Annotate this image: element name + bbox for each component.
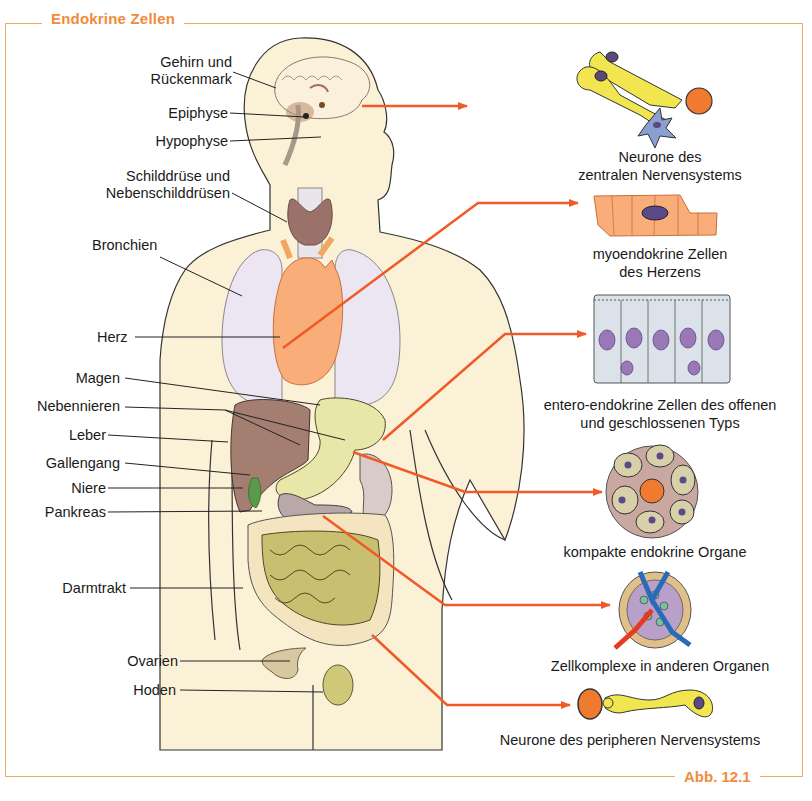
label-hoden: Hoden <box>100 682 176 699</box>
compact-endocrine-organ-illustration <box>606 445 698 538</box>
enteroendocrine-cells-illustration <box>594 295 730 383</box>
label-schilddruese-line2: Nebenschilddrüsen <box>60 185 230 202</box>
cns-neuron-illustration <box>577 52 712 148</box>
label-hypophyse: Hypophyse <box>120 133 228 150</box>
caption-myoendokrin: myoendokrine Zellen des Herzens <box>560 245 760 281</box>
label-bronchien: Bronchien <box>92 237 157 254</box>
label-darmtrakt: Darmtrakt <box>30 580 126 597</box>
caption-entero-line1: entero-endokrine Zellen des offenen <box>510 396 810 414</box>
label-ovarien: Ovarien <box>100 653 178 670</box>
figure-number: Abb. 12.1 <box>675 768 760 785</box>
cell-complex-illustration <box>615 572 691 648</box>
caption-myoendokrin-line1: myoendokrine Zellen <box>560 245 760 263</box>
label-herz: Herz <box>97 329 128 346</box>
label-leber: Leber <box>40 427 106 444</box>
pns-neuron-illustration <box>578 689 713 719</box>
caption-entero-line2: und geschlossenen Typs <box>510 414 810 432</box>
myoendocrine-cell-illustration <box>594 195 717 236</box>
caption-entero: entero-endokrine Zellen des offenen und … <box>510 396 810 432</box>
caption-myoendokrin-line2: des Herzens <box>560 263 760 281</box>
label-pankreas: Pankreas <box>20 504 106 521</box>
caption-zns: Neurone des zentralen Nervensystems <box>560 148 760 184</box>
caption-zns-line1: Neurone des <box>560 148 760 166</box>
label-schilddruese-line1: Schilddrüse und <box>60 168 230 185</box>
caption-kompakt: kompakte endokrine Organe <box>540 543 770 561</box>
caption-pns: Neurone des peripheren Nervensystems <box>480 731 780 749</box>
label-gehirn-line2: Rückenmark <box>120 71 232 88</box>
label-epiphyse: Epiphyse <box>120 105 228 122</box>
label-gehirn-line1: Gehirn und <box>120 54 232 71</box>
caption-zellkomplexe: Zellkomplexe in anderen Organen <box>520 657 800 675</box>
label-magen: Magen <box>40 370 120 387</box>
label-gehirn: Gehirn und Rückenmark <box>120 54 232 88</box>
label-nebennieren: Nebennieren <box>20 398 120 415</box>
label-niere: Niere <box>40 480 106 497</box>
label-gallengang: Gallengang <box>20 455 120 472</box>
figure-title: Endokrine Zellen <box>42 10 184 27</box>
label-schilddruese: Schilddrüse und Nebenschilddrüsen <box>60 168 230 202</box>
caption-zns-line2: zentralen Nervensystems <box>560 166 760 184</box>
